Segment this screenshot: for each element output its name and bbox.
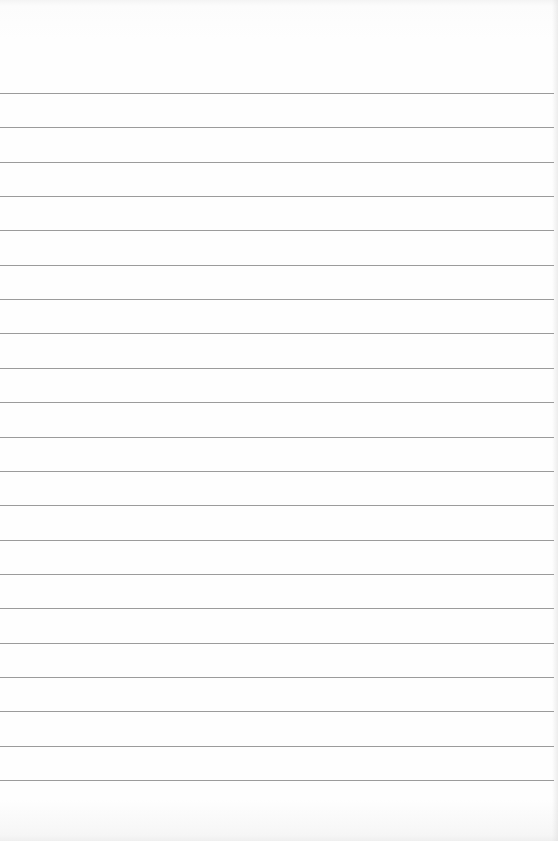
ruled-line [0,162,554,163]
ruled-line [0,608,554,609]
ruled-line [0,540,554,541]
ruled-line [0,230,554,231]
ruled-line [0,196,554,197]
ruled-line [0,368,554,369]
ruled-line [0,265,554,266]
lined-paper-sheet [0,0,558,841]
ruled-line [0,677,554,678]
ruled-line [0,471,554,472]
ruled-line [0,127,554,128]
ruled-line [0,299,554,300]
ruled-line [0,505,554,506]
ruled-line [0,93,554,94]
ruled-line [0,711,554,712]
ruled-line [0,437,554,438]
ruled-line [0,780,554,781]
ruled-line [0,746,554,747]
ruled-line [0,574,554,575]
ruled-line [0,643,554,644]
ruled-line [0,402,554,403]
ruled-line [0,333,554,334]
